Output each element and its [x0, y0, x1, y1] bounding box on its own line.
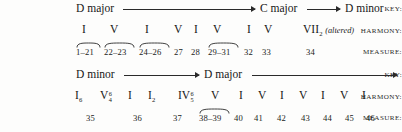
chord-symbol-vii: VII2 (altered) [303, 22, 354, 38]
measure-row-bottom: MEASURE: 35 36 37 38–39 40 41 42 43 44 4… [0, 108, 402, 130]
chord-symbol: I [128, 88, 132, 102]
measure-label: 45 [345, 113, 354, 124]
harmony-track-top: I V I V I V I V VII2 (altered) [0, 20, 402, 42]
chord-figure-stack: 6 4 [109, 91, 113, 102]
chord-symbol: I [239, 88, 243, 102]
measure-row-top: MEASURE: 1–21 22–23 24–26 27 28 [0, 42, 402, 64]
chord-figure: 6 [79, 93, 82, 107]
measure-label: 28 [191, 47, 200, 58]
measure-label: 37 [173, 113, 182, 124]
chord-symbol: I [145, 22, 149, 36]
harmony-row-bottom: HARMONY: I6 V 6 4 I I2 IV 6 [0, 86, 402, 108]
key-arrow-1 [124, 71, 199, 80]
measure-label: 41 [254, 113, 263, 124]
key-name-d-minor: D minor [76, 67, 115, 81]
chord-symbol: I [82, 22, 86, 36]
key-row-top: KEY: D major C major D minor [0, 0, 402, 20]
key-name-d-major: D major [76, 1, 114, 15]
key-arrow-2 [307, 5, 340, 14]
measure-label: 33 [262, 47, 271, 58]
key-name-c-major: C major [260, 1, 297, 15]
measure-track-top: 1–21 22–23 24–26 27 28 29–31 32 33 34 [0, 42, 402, 64]
chord-symbol: V [211, 88, 219, 102]
measure-label: 36 [133, 113, 142, 124]
chord-symbol: I2 [148, 88, 155, 104]
chord-numeral: V [100, 88, 108, 102]
chord-symbol: IV 6 5 [178, 88, 194, 102]
analysis-block-bottom: KEY: D minor D major HARMONY: I6 V [0, 66, 402, 130]
measure-label: 27 [174, 47, 183, 58]
measure-label: 44 [323, 113, 332, 124]
chord-symbol: I [280, 88, 284, 102]
chord-symbol: V [213, 22, 221, 36]
chord-figure-lower: 4 [109, 97, 112, 103]
chord-symbol: V [299, 88, 307, 102]
key-track-top: D major C major D minor [76, 0, 402, 20]
analysis-block-top: KEY: D major C major D minor HARMONY: I … [0, 0, 402, 64]
measure-label: 40 [234, 113, 243, 124]
chord-symbol: V [264, 22, 272, 36]
chord-symbol: V [340, 88, 348, 102]
measure-label: 22–23 [104, 47, 126, 58]
key-row-bottom: KEY: D minor D major [0, 66, 402, 86]
measure-label: 32 [244, 47, 253, 58]
chord-symbol: I [247, 22, 251, 36]
chord-figure-lower: 5 [191, 97, 194, 103]
measure-label: 1–21 [76, 47, 94, 58]
measure-label: 35 [86, 113, 95, 124]
chord-figure: 2 [319, 27, 322, 41]
measure-track-bottom: 35 36 37 38–39 40 41 42 43 44 45 46 [0, 108, 402, 130]
chord-symbol: I [362, 88, 366, 102]
chord-numeral: IV [178, 88, 190, 102]
measure-label: 24–26 [139, 47, 161, 58]
measure-label: 46 [366, 113, 375, 124]
key-name-d-minor: D minor [345, 1, 384, 15]
chord-symbol: V [258, 88, 266, 102]
measure-label: 42 [277, 113, 286, 124]
measure-label: 29–31 [208, 47, 230, 58]
measure-label: 34 [306, 47, 315, 58]
key-track-bottom: D minor D major [76, 66, 402, 86]
chord-figure-stack: 6 5 [191, 91, 195, 102]
harmony-track-bottom: I6 V 6 4 I I2 IV 6 5 [0, 86, 402, 108]
chord-symbol: I6 [75, 88, 82, 104]
harmony-row-top: HARMONY: I V I V I V I V VII2 (altered) [0, 20, 402, 42]
key-arrow-2 [252, 71, 397, 80]
chord-figure: 2 [152, 93, 155, 107]
measure-label: 43 [301, 113, 310, 124]
key-arrow-1 [123, 5, 255, 14]
chord-numeral: VII [303, 22, 319, 36]
key-name-d-major: D major [204, 67, 242, 81]
measure-label: 38–39 [199, 113, 221, 124]
chord-symbol: V [174, 22, 182, 36]
harmonic-analysis-chart: KEY: D major C major D minor HARMONY: I … [0, 0, 402, 132]
chord-symbol: I [194, 22, 198, 36]
chord-symbol: V [110, 22, 118, 36]
chord-annotation: (altered) [325, 26, 354, 35]
chord-symbol: V 6 4 [100, 88, 112, 102]
chord-symbol: I [321, 88, 325, 102]
